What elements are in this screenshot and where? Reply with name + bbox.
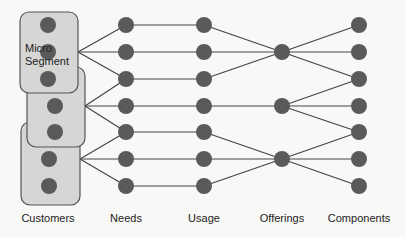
customer-node (40, 17, 56, 33)
customer-node (40, 71, 56, 87)
edge-line (78, 25, 126, 52)
usage-node (196, 98, 212, 114)
micro-segment-label-line-2: Segment (25, 55, 69, 68)
usage-node (196, 178, 212, 194)
customer-node (47, 124, 63, 140)
component-node (351, 151, 367, 167)
offering-node (274, 44, 290, 60)
component-node (351, 44, 367, 60)
edge-line (282, 52, 359, 79)
component-node (351, 178, 367, 194)
usage-node (196, 44, 212, 60)
offering-node (274, 151, 290, 167)
usage-node (196, 151, 212, 167)
need-node (118, 17, 134, 33)
component-node (351, 98, 367, 114)
component-node (351, 124, 367, 140)
value-chain-diagram (0, 0, 406, 237)
micro-segment-label-line-1: Micro (25, 42, 69, 55)
component-node (351, 71, 367, 87)
edge-line (282, 106, 359, 132)
customer-node (41, 178, 57, 194)
usage-node (196, 71, 212, 87)
need-node (118, 151, 134, 167)
micro-segment-label: Micro Segment (25, 42, 69, 68)
usage-node (196, 17, 212, 33)
need-node (118, 98, 134, 114)
column-label-offerings: Offerings (260, 212, 304, 224)
column-label-needs: Needs (110, 212, 142, 224)
offering-node (274, 98, 290, 114)
column-label-customers: Customers (21, 212, 74, 224)
edge-line (80, 132, 126, 159)
column-label-usage: Usage (188, 212, 220, 224)
edge-line (282, 132, 359, 159)
edge-line (204, 159, 282, 186)
need-node (118, 71, 134, 87)
edge-line (282, 79, 359, 106)
edge-line (204, 132, 282, 159)
edge-line (204, 25, 282, 52)
column-label-components: Components (328, 212, 390, 224)
segment-layer (20, 12, 85, 205)
edge-line (204, 52, 282, 79)
need-node (118, 44, 134, 60)
usage-node (196, 124, 212, 140)
need-node (118, 178, 134, 194)
edge-line (80, 159, 126, 186)
component-node (351, 17, 367, 33)
edge-line (282, 25, 359, 52)
edge-line (282, 159, 359, 186)
customer-node (47, 98, 63, 114)
customer-node (41, 151, 57, 167)
need-node (118, 124, 134, 140)
